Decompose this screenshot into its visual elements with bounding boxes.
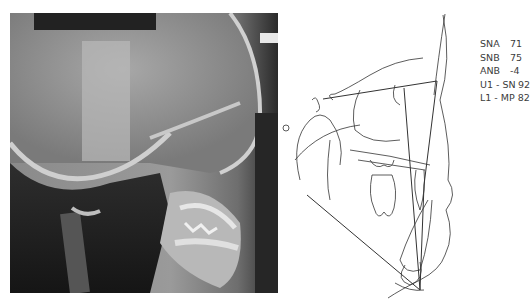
measurement-label: L1 - MP — [480, 91, 515, 105]
measurement-label: U1 - SN — [480, 78, 515, 92]
measurement-l1-mp: L1 - MP 82 — [480, 91, 530, 105]
measurement-sna: SNA 71 — [480, 37, 530, 51]
measurement-anb: ANB -4 — [480, 64, 530, 78]
measurement-value: -4 — [510, 64, 519, 78]
measurement-value: 92 — [518, 78, 530, 92]
cephalometric-xray — [10, 13, 278, 293]
measurement-label: SNB — [480, 51, 510, 65]
cephalometric-measurements: SNA 71 SNB 75 ANB -4 U1 - SN 92 L1 - MP … — [480, 37, 530, 105]
cephalometric-tracing — [280, 0, 475, 300]
measurement-label: SNA — [480, 37, 510, 51]
measurement-u1-sn: U1 - SN 92 — [480, 78, 530, 92]
measurement-value: 71 — [510, 37, 522, 51]
tracing-drawing — [280, 0, 475, 300]
measurement-label: ANB — [480, 64, 510, 78]
xray-image — [10, 13, 278, 293]
measurement-value: 75 — [510, 51, 522, 65]
measurement-value: 82 — [518, 91, 530, 105]
measurement-snb: SNB 75 — [480, 51, 530, 65]
